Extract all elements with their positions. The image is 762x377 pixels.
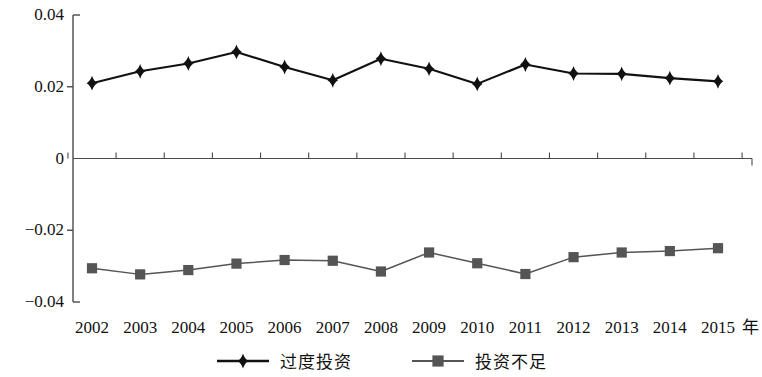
data-point-marker [87,76,98,91]
data-point-marker [327,73,338,88]
series-line [92,52,718,84]
x-axis-tick-label: 2013 [605,319,639,336]
x-axis-tick-label: 2008 [364,319,398,336]
x-axis-tick-label: 2009 [412,319,446,336]
legend-label: 投资不足 [475,348,547,373]
data-point-marker [183,56,194,71]
x-axis-tick-label: 2006 [268,319,302,336]
data-point-marker [713,74,724,89]
y-axis-tick-label: 0.02 [8,78,64,95]
x-axis-tick-label: 2007 [316,319,350,336]
y-axis-tick-label: 0.04 [8,6,64,23]
x-axis-tick-label: 2002 [75,319,109,336]
data-point-marker [376,51,387,66]
y-axis-tick-label: 0 [8,150,64,167]
data-point-marker [328,256,338,266]
data-point-marker [183,265,193,275]
x-axis-unit-label: 年 [742,319,759,336]
legend-item-under-investment[interactable]: 投资不足 [410,348,547,373]
data-point-marker [665,246,675,256]
legend-label: 过度投资 [280,348,352,373]
data-point-marker [472,76,483,91]
legend-item-over-investment[interactable]: 过度投资 [215,348,352,373]
chart-legend: 过度投资投资不足 [0,344,762,377]
x-axis-tick-label: 2012 [557,319,591,336]
x-axis-tick-label: 2004 [171,319,205,336]
data-point-marker [665,71,676,86]
data-point-marker [472,258,482,268]
x-axis-tick-label: 2003 [123,319,157,336]
data-point-marker [568,66,579,81]
data-point-marker [135,64,146,79]
y-axis-tick-labels: 0.040.020−0.02−0.04 [0,0,64,320]
chart-page: 0.040.020−0.02−0.04 20022003200420052006… [0,0,762,377]
data-point-marker [376,266,386,276]
square-marker-icon [410,351,466,371]
x-axis-tick-label: 2014 [653,319,687,336]
data-point-marker [87,263,97,273]
x-axis-tick-label: 2015 [701,319,735,336]
series-over-investment [87,45,724,92]
y-axis-tick-label: −0.02 [8,221,64,238]
data-point-marker [520,269,530,279]
data-point-marker [568,252,578,262]
data-point-marker [713,243,723,253]
data-point-marker [280,255,290,265]
x-axis-tick-label: 2005 [219,319,253,336]
data-point-marker [616,66,627,81]
data-point-marker [135,269,145,279]
diamond-marker-icon [215,351,271,371]
data-point-marker [279,60,290,75]
data-point-marker [231,259,241,269]
data-point-marker [424,247,434,257]
series-under-investment [87,243,723,279]
x-axis-tick-label: 2010 [460,319,494,336]
plot-area: 0.040.020−0.02−0.04 [0,0,762,320]
x-axis-tick-labels: 2002200320042005200620072008200920102011… [0,305,762,335]
chart-canvas [0,0,762,320]
data-point-marker [231,45,242,60]
x-axis-tick-label: 2011 [509,319,542,336]
data-point-marker [617,247,627,257]
data-point-marker [520,57,531,72]
data-point-marker [424,61,435,76]
